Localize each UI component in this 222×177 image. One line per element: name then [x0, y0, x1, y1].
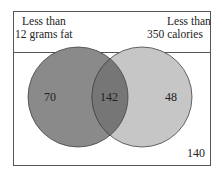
set-a-only-count: 70: [44, 90, 56, 105]
intersection-count: 142: [100, 90, 118, 105]
set-b-label-line1: Less than: [167, 15, 211, 28]
set-a-label-line2: 12 grams fat: [15, 28, 72, 41]
set-b-label-line2: 350 calories: [147, 28, 203, 41]
outside-count: 140: [187, 146, 205, 161]
set-b-only-count: 48: [165, 90, 177, 105]
set-a-label-line1: Less than: [22, 15, 66, 28]
